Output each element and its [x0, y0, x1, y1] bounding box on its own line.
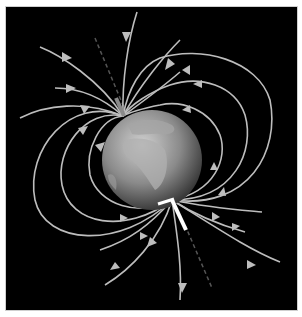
earth-globe	[102, 110, 202, 210]
axis-line-south	[185, 225, 212, 288]
magnetic-field-diagram	[0, 0, 302, 317]
